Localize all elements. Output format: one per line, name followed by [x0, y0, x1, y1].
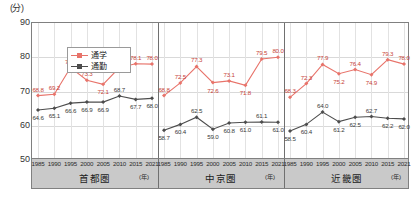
data-point-label: 78.1 — [130, 53, 141, 60]
legend-label-commute: 通勤 — [91, 63, 107, 71]
data-point-label: 61.0 — [272, 126, 283, 133]
data-point-label: 64.0 — [317, 102, 328, 109]
data-point-label: 72.5 — [175, 72, 186, 79]
x-axis-tick-label: 1995 — [190, 160, 203, 167]
data-point-label: 68.8 — [32, 85, 43, 92]
data-point-label: 66.9 — [98, 106, 109, 113]
x-axis-tick-label: 1990 — [48, 160, 61, 167]
panel-region-label: 中京圏 — [205, 171, 237, 185]
plot-lines — [32, 23, 410, 160]
x-axis-tick-label: 2015 — [255, 160, 268, 167]
data-point-label: 58.7 — [158, 134, 169, 141]
y-axis-tick: 60 — [8, 120, 30, 130]
series-marker — [101, 100, 105, 104]
data-point-label: 62.5 — [191, 107, 202, 114]
series-marker — [402, 62, 406, 66]
data-point-label: 77.3 — [191, 56, 202, 63]
series-marker — [36, 94, 40, 98]
series-marker — [117, 94, 121, 98]
series-marker — [227, 79, 231, 83]
legend-marker-commute-icon — [71, 62, 88, 71]
data-point-label: 68.7 — [114, 85, 125, 92]
data-point-label: 65.1 — [49, 112, 60, 119]
data-point-label: 79.5 — [256, 48, 267, 55]
x-axis-tick-label: 2010 — [113, 160, 126, 167]
y-axis-tick: 50 — [8, 154, 30, 164]
data-point-label: 66.9 — [81, 106, 92, 113]
series-marker — [260, 120, 264, 124]
data-point-label: 77.9 — [317, 54, 328, 61]
panel-region-label: 首都圏 — [79, 171, 111, 185]
series-marker — [36, 108, 40, 112]
data-point-label: 68.3 — [284, 87, 295, 94]
data-point-label: 64.6 — [32, 113, 43, 120]
panel-region-label: 近畿圏 — [331, 171, 363, 185]
data-point-label: 72.3 — [301, 73, 312, 80]
x-axis-unit-label: (年) — [139, 172, 149, 181]
legend-item-school: 通学 — [71, 50, 127, 61]
x-axis-tick-label: 2010 — [239, 160, 252, 167]
x-axis-tick-label: 2005 — [97, 160, 110, 167]
data-point-label: 76.4 — [350, 59, 361, 66]
data-point-label: 62.7 — [366, 106, 377, 113]
legend-marker-school-icon — [71, 51, 88, 60]
y-axis-tick: 80 — [8, 51, 30, 61]
series-marker — [69, 101, 73, 105]
x-axis-tick-label: 1995 — [316, 160, 329, 167]
plot-frame: 68.869.277.073.372.177.078.178.064.665.1… — [31, 22, 409, 159]
x-axis-tick-label: 2015 — [381, 160, 394, 167]
series-marker — [276, 55, 280, 59]
data-point-label: 68.0 — [146, 102, 157, 109]
series-marker — [227, 121, 231, 125]
data-point-label: 66.6 — [65, 107, 76, 114]
data-point-label: 69.2 — [49, 84, 60, 91]
series-marker — [134, 62, 138, 66]
x-axis-unit-label: (年) — [391, 172, 401, 181]
data-point-label: 61.2 — [333, 125, 344, 132]
y-axis-tick: 70 — [8, 86, 30, 96]
series-marker — [162, 128, 166, 132]
data-point-label: 58.5 — [284, 134, 295, 141]
x-axis-tick-label: 1985 — [32, 160, 45, 167]
data-point-label: 73.1 — [224, 70, 235, 77]
x-axis-band: 19851990199520002005201020152021首都圏(年)19… — [31, 159, 409, 189]
series-marker — [243, 120, 247, 124]
x-axis-tick-label: 2015 — [129, 160, 142, 167]
data-point-label: 61.0 — [240, 126, 251, 133]
data-point-label: 67.7 — [130, 103, 141, 110]
legend-item-commute: 通勤 — [71, 61, 127, 72]
data-point-label: 62.2 — [382, 122, 393, 129]
series-marker — [85, 100, 89, 104]
chart-root: (分) 5060708090 68.869.277.073.372.177.07… — [0, 0, 415, 199]
data-point-label: 72.6 — [207, 86, 218, 93]
x-axis-tick-label: 1990 — [174, 160, 187, 167]
legend-label-school: 通学 — [91, 52, 107, 60]
data-point-label: 59.0 — [207, 133, 218, 140]
x-axis-tick-label: 1985 — [158, 160, 171, 167]
data-point-label: 71.8 — [240, 89, 251, 96]
series-marker — [386, 116, 390, 120]
data-point-label: 75.2 — [333, 77, 344, 84]
series-marker — [402, 117, 406, 121]
x-axis-tick-label: 1985 — [284, 160, 297, 167]
data-point-label: 62.0 — [398, 122, 409, 129]
series-marker — [369, 115, 373, 119]
data-point-label: 78.0 — [146, 54, 157, 61]
data-point-label: 61.1 — [256, 111, 267, 118]
data-point-label: 60.4 — [175, 128, 186, 135]
x-axis-tick-label: 2005 — [223, 160, 236, 167]
x-axis-tick-label: 2021 — [398, 160, 411, 167]
data-point-label: 79.3 — [382, 49, 393, 56]
series-marker — [276, 120, 280, 124]
x-axis-tick-label: 2000 — [332, 160, 345, 167]
series-marker — [353, 115, 357, 119]
data-point-label: 74.9 — [366, 78, 377, 85]
x-axis-tick-label: 2000 — [206, 160, 219, 167]
series-marker — [288, 129, 292, 133]
x-axis-tick-label: 2000 — [80, 160, 93, 167]
data-point-label: 78.0 — [398, 54, 409, 61]
data-point-label: 62.5 — [350, 121, 361, 128]
series-marker — [353, 68, 357, 72]
x-axis-tick-label: 1990 — [300, 160, 313, 167]
y-axis-tick: 90 — [8, 17, 30, 27]
